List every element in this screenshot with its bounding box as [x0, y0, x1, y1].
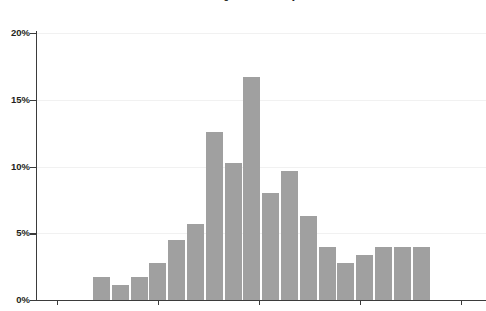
y-axis-label-0: 0% — [16, 295, 30, 305]
bar — [281, 171, 298, 300]
bar — [149, 263, 166, 300]
y-axis-label-20: 20% — [11, 28, 30, 38]
x-tick-0 — [57, 300, 58, 305]
x-tick-4 — [461, 300, 462, 305]
bar — [262, 193, 279, 300]
bar — [131, 277, 148, 300]
bar — [206, 132, 223, 300]
bar — [413, 247, 430, 300]
y-tick-10 — [30, 167, 37, 168]
bar-chart: U.S. Weight Loss Industry 20% 15% 10% 5%… — [0, 0, 486, 311]
bar — [300, 216, 317, 300]
x-tick-2 — [259, 300, 260, 305]
bar — [356, 255, 373, 300]
bar — [112, 285, 129, 300]
y-tick-0 — [30, 300, 37, 301]
bar — [93, 277, 110, 300]
bar — [337, 263, 354, 300]
bar — [394, 247, 411, 300]
bar — [243, 77, 260, 300]
y-tick-15 — [30, 100, 37, 101]
bar — [375, 247, 392, 300]
y-tick-20 — [30, 33, 37, 34]
y-axis-label-15: 15% — [11, 95, 30, 105]
bar — [319, 247, 336, 300]
y-axis-label-10: 10% — [11, 162, 30, 172]
bar — [187, 224, 204, 300]
y-tick-5 — [30, 233, 37, 234]
bar — [225, 163, 242, 301]
x-tick-3 — [360, 300, 361, 305]
bar — [168, 240, 185, 300]
bars-layer — [37, 33, 486, 300]
chart-title: U.S. Weight Loss Industry — [0, 0, 486, 2]
x-tick-1 — [158, 300, 159, 305]
y-axis-label-5: 5% — [16, 228, 30, 238]
